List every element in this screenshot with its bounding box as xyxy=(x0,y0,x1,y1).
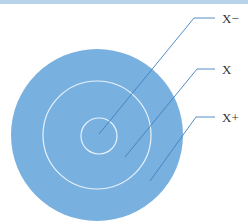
label-x-plus: X+ xyxy=(222,111,239,124)
label-x-minus: X− xyxy=(222,12,239,25)
label-x: X xyxy=(222,63,231,76)
concentric-circles-diagram xyxy=(0,0,248,224)
outer-disc-x-plus xyxy=(11,49,183,221)
